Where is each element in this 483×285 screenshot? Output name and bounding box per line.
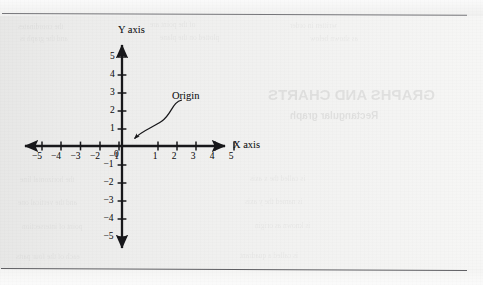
x-tick-label-4: 4	[210, 152, 215, 162]
y-tick-label-3: 3	[110, 88, 115, 98]
y-tick-label--2: −2	[104, 178, 114, 188]
x-tick-label--2: −2	[90, 152, 100, 162]
figure-page: the coordinatesof the point arewritten i…	[0, 0, 483, 285]
y-tick-label--5: −5	[104, 232, 114, 242]
y-axis-label: Y axis	[118, 25, 145, 36]
x-axis-label: X axis	[233, 140, 260, 151]
x-tick-label--4: −4	[51, 152, 61, 162]
y-tick-label--1: −1	[104, 160, 114, 170]
y-tick-label-5: 5	[110, 52, 115, 62]
x-tick-label--5: −5	[32, 152, 42, 162]
y-tick-label--4: −4	[104, 214, 114, 224]
x-tick-label-5: 5	[229, 152, 234, 162]
y-tick-label-4: 4	[110, 70, 115, 80]
x-tick-label-1: 1	[153, 152, 158, 162]
y-tick-label-1: 1	[110, 124, 115, 134]
origin-callout-arrow	[135, 100, 183, 139]
x-tick-label--3: −3	[71, 152, 81, 162]
y-tick-label-2: 2	[110, 106, 115, 116]
x-tick-label-3: 3	[191, 152, 196, 162]
y-tick-label--3: −3	[104, 196, 114, 206]
origin-callout-label: Origin	[172, 91, 199, 102]
x-tick-label-2: 2	[172, 152, 177, 162]
